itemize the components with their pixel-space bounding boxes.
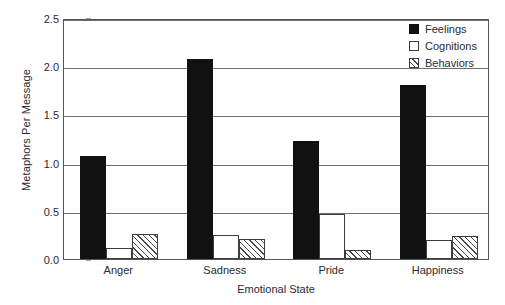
- y-axis-tick-label: 0.0: [28, 254, 59, 266]
- y-axis-tick-label: 2.0: [28, 61, 59, 73]
- bar-anger-behaviors: [132, 234, 158, 259]
- bar-sadness-cognitions: [213, 235, 239, 259]
- legend-label: Cognitions: [425, 40, 477, 52]
- bar-pride-feelings: [293, 141, 319, 259]
- bar-pride-cognitions: [319, 214, 345, 259]
- legend-swatch-behaviors-icon: [409, 58, 419, 68]
- y-axis-tick-label: 1.0: [28, 158, 59, 170]
- legend-label: Feelings: [425, 23, 467, 35]
- y-axis-tick-label: 0.5: [28, 206, 59, 218]
- y-axis-tick-label: 1.5: [28, 109, 59, 121]
- x-axis-tick-labels: AngerSadnessPrideHappiness: [63, 264, 489, 280]
- legend-item-feelings: Feelings: [409, 22, 493, 36]
- bar-pride-behaviors: [345, 250, 371, 259]
- chart-legend: FeelingsCognitionsBehaviors: [409, 22, 493, 70]
- legend-item-behaviors: Behaviors: [409, 56, 493, 70]
- bar-anger-feelings: [80, 156, 106, 259]
- legend-item-cognitions: Cognitions: [409, 39, 493, 53]
- bar-happiness-cognitions: [426, 240, 452, 259]
- bar-sadness-feelings: [187, 59, 213, 259]
- bar-anger-cognitions: [106, 248, 132, 259]
- y-axis-tick-label: 2.5: [28, 13, 59, 25]
- bar-sadness-behaviors: [239, 239, 265, 259]
- x-axis-tick-label: Happiness: [412, 264, 464, 276]
- y-axis-tick-labels: 0.00.51.01.52.02.5: [28, 19, 59, 260]
- bar-happiness-behaviors: [452, 236, 478, 259]
- x-axis-tick-label: Sadness: [203, 264, 246, 276]
- chart-screenshot: Metaphors Per Message 0.00.51.01.52.02.5…: [0, 0, 505, 305]
- x-axis-tick-label: Pride: [318, 264, 344, 276]
- x-axis-title: Emotional State: [63, 283, 489, 295]
- legend-swatch-cognitions-icon: [409, 41, 419, 51]
- legend-swatch-feelings-icon: [409, 24, 419, 34]
- bar-happiness-feelings: [400, 85, 426, 259]
- legend-label: Behaviors: [425, 57, 474, 69]
- plot-area: FeelingsCognitionsBehaviors: [63, 19, 489, 260]
- x-axis-tick-label: Anger: [104, 264, 133, 276]
